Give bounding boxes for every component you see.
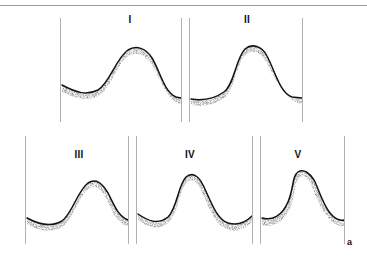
- panel-4-left-guide-line: [136, 136, 137, 244]
- waveform-trace-1: [62, 48, 181, 98]
- waveform-trace-group: [27, 46, 344, 225]
- panel-1-label: I: [129, 15, 132, 25]
- waveform-trace-2: [191, 46, 302, 100]
- panel-5-left-guide-line: [260, 136, 261, 244]
- panel-4-label: IV: [185, 150, 195, 160]
- panel-1-right-guide-line: [181, 18, 182, 122]
- panel-5-right-guide-line: [344, 136, 345, 244]
- panel-2-left-guide-line: [189, 18, 190, 122]
- panel-5-label: V: [295, 150, 302, 160]
- panel-2-label: II: [244, 15, 250, 25]
- waveform-speckle-2: [191, 46, 302, 106]
- panel-2-right-guide-line: [302, 18, 303, 122]
- panel-1-left-guide-line: [60, 18, 61, 122]
- panel-3-left-guide-line: [25, 136, 26, 244]
- panel-4-right-guide-line: [252, 136, 253, 244]
- figure-container: I II III IV V a: [0, 0, 367, 260]
- figure-part-label: a: [347, 238, 352, 247]
- waveform-trace-5: [262, 171, 344, 221]
- waveform-canvas: [0, 0, 367, 260]
- panel-3-right-guide-line: [128, 136, 129, 244]
- waveform-band-2: [191, 46, 302, 106]
- waveform-trace-4: [138, 175, 252, 224]
- panel-3-label: III: [75, 150, 84, 160]
- waveform-speckle-4: [138, 175, 252, 231]
